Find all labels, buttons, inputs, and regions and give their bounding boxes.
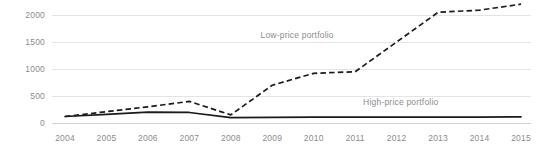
x-axis-tick-label-2006: 2006 (138, 133, 158, 143)
x-axis-tick-label-2012: 2012 (387, 133, 407, 143)
series-label-low-price-portfolio: Low-price portfolio (261, 30, 334, 40)
x-axis-tick-label-2007: 2007 (180, 133, 200, 143)
x-axis-tick-label-2009: 2009 (262, 133, 282, 143)
y-axis-tick-label: 2000 (25, 10, 45, 20)
x-axis-tick-label-2015: 2015 (511, 133, 531, 143)
y-axis-tick-labels: 0500100015002000 (25, 10, 45, 128)
y-axis-tick-label: 0 (40, 118, 45, 128)
series-line-low-price-portfolio (65, 4, 521, 116)
y-axis-tick-label: 500 (30, 91, 45, 101)
x-axis-tick-label-2008: 2008 (221, 133, 241, 143)
y-axis-tick-label: 1000 (25, 64, 45, 74)
y-axis-tick-label: 1500 (25, 37, 45, 47)
x-axis-tick-label-2005: 2005 (97, 133, 117, 143)
series-line-high-price-portfolio (65, 112, 521, 117)
x-axis-tick-label-2011: 2011 (346, 133, 365, 143)
x-axis-tick-label-2004: 2004 (55, 133, 75, 143)
series-group (65, 4, 521, 117)
series-label-high-price-portfolio: High-price portfolio (363, 97, 438, 107)
x-axis-tick-label-2013: 2013 (428, 133, 448, 143)
line-chart: 0500100015002000 20042005200620072008200… (0, 0, 543, 154)
x-axis-tick-labels: 2004200520062007200820092010201120122013… (55, 133, 531, 143)
x-axis-tick-label-2010: 2010 (304, 133, 324, 143)
chart-canvas: 0500100015002000 20042005200620072008200… (0, 0, 543, 154)
x-axis-tick-label-2014: 2014 (470, 133, 490, 143)
series-annotations-group: Low-price portfolioHigh-price portfolio (261, 30, 439, 108)
